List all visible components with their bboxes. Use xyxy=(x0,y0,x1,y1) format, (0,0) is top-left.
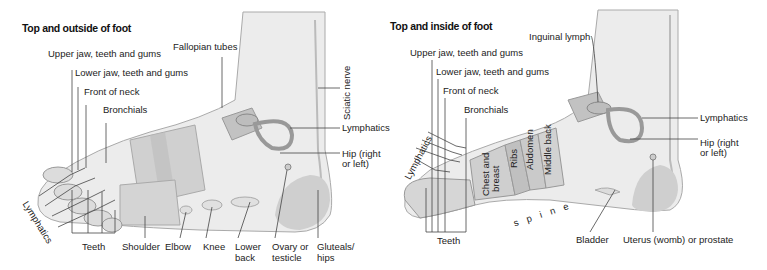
label-lower-jaw: Lower jaw, teeth and gums xyxy=(75,67,188,78)
left-foot-panel: Top and outside of foot Upper jaw, teeth… xyxy=(0,0,380,270)
label-ovary-1: Ovary or xyxy=(272,241,308,252)
label-bronchials-r: Bronchials xyxy=(464,104,508,115)
label-lymphatics-ankle-r: Lymphatics xyxy=(700,112,748,123)
label-chest-2: breast xyxy=(490,166,501,192)
label-lower-back-2: back xyxy=(235,252,255,263)
label-hip-line2-r: or left) xyxy=(700,147,727,158)
label-elbow: Elbow xyxy=(165,241,191,252)
label-ribs: Ribs xyxy=(508,149,519,168)
label-teeth: Teeth xyxy=(82,241,105,252)
label-inguinal-lymph: Inguinal lymph xyxy=(529,31,590,42)
label-ovary-2: testicle xyxy=(272,252,302,263)
label-knee: Knee xyxy=(203,241,225,252)
label-lower-jaw-r: Lower jaw, teeth and gums xyxy=(436,66,549,77)
label-hip-line2: or left) xyxy=(342,158,369,169)
label-front-of-neck-r: Front of neck xyxy=(443,85,498,96)
label-bladder: Bladder xyxy=(576,234,609,245)
label-lower-back-1: Lower xyxy=(235,241,261,252)
label-front-of-neck: Front of neck xyxy=(84,86,139,97)
label-abdomen: Abdomen xyxy=(524,129,535,170)
label-upper-jaw-r: Upper jaw, teeth and gums xyxy=(410,47,523,58)
label-fallopian-tubes: Fallopian tubes xyxy=(173,41,237,52)
right-panel-title: Top and inside of foot xyxy=(390,20,492,32)
right-foot-panel: Top and inside of foot Inguinal lymph Up… xyxy=(380,0,767,270)
left-panel-title: Top and outside of foot xyxy=(22,22,131,34)
label-middle-back: Middle back xyxy=(542,124,553,175)
label-uterus-prostate: Uterus (womb) or prostate xyxy=(623,234,733,245)
label-upper-jaw: Upper jaw, teeth and gums xyxy=(48,48,161,59)
label-gluteals-1: Gluteals/ xyxy=(317,241,355,252)
label-gluteals-2: hips xyxy=(317,252,334,263)
label-teeth-r: Teeth xyxy=(437,235,460,246)
label-bronchials: Bronchials xyxy=(103,104,147,115)
label-shoulder: Shoulder xyxy=(122,241,160,252)
label-sciatic-nerve: Sciatic nerve xyxy=(341,66,352,120)
